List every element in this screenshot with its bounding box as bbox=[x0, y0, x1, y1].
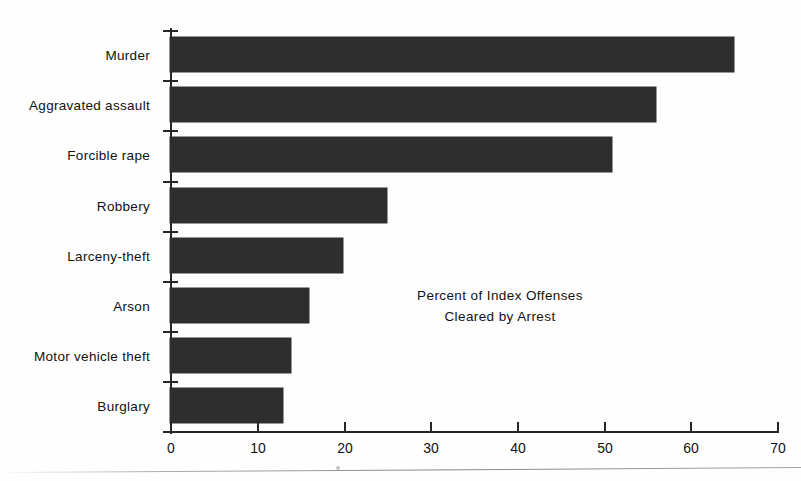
bar-burglary bbox=[170, 388, 283, 423]
bar-forcible-rape bbox=[170, 137, 612, 172]
category-label-robbery: Robbery bbox=[97, 199, 150, 214]
chart-annotation: Percent of Index Offenses Cleared by Arr… bbox=[380, 286, 620, 328]
x-axis-tick-label-60: 60 bbox=[683, 440, 699, 456]
bar-arson bbox=[170, 288, 309, 323]
x-axis-tick-label-40: 40 bbox=[510, 440, 526, 456]
x-axis-tick bbox=[690, 422, 692, 433]
chart-annotation-line-1: Percent of Index Offenses bbox=[380, 286, 620, 307]
x-axis-tick-label-50: 50 bbox=[597, 440, 613, 456]
x-axis-tick bbox=[170, 422, 172, 433]
x-axis-tick bbox=[777, 422, 779, 433]
x-axis-tick bbox=[517, 422, 519, 433]
category-label-motor-vehicle-theft: Motor vehicle theft bbox=[34, 349, 150, 364]
category-label-forcible-rape: Forcible rape bbox=[67, 148, 150, 163]
category-label-arson: Arson bbox=[113, 299, 150, 314]
x-axis-tick bbox=[344, 422, 346, 433]
bar-robbery bbox=[170, 188, 387, 223]
x-axis-tick-label-20: 20 bbox=[337, 440, 353, 456]
category-axis-labels: Murder Aggravated assault Forcible rape … bbox=[0, 30, 160, 432]
category-label-burglary: Burglary bbox=[97, 399, 150, 414]
scan-artifact-speck bbox=[336, 466, 340, 470]
bar-chart-figure: Murder Aggravated assault Forcible rape … bbox=[0, 0, 801, 481]
bar-aggravated-assault bbox=[170, 87, 656, 122]
bar-larceny-theft bbox=[170, 238, 343, 273]
x-axis-tick-label-70: 70 bbox=[770, 440, 786, 456]
bar-motor-vehicle-theft bbox=[170, 338, 291, 373]
x-axis-tick bbox=[257, 422, 259, 433]
x-axis-tick bbox=[604, 422, 606, 433]
x-axis-tick-label-30: 30 bbox=[423, 440, 439, 456]
category-label-larceny-theft: Larceny-theft bbox=[67, 249, 150, 264]
x-axis-tick-label-0: 0 bbox=[167, 440, 175, 456]
plot-area bbox=[170, 30, 777, 432]
bar-murder bbox=[170, 37, 734, 72]
category-label-murder: Murder bbox=[105, 48, 150, 63]
chart-annotation-line-2: Cleared by Arrest bbox=[380, 307, 620, 328]
x-axis-tick bbox=[430, 422, 432, 433]
x-axis-line bbox=[170, 431, 779, 433]
scan-artifact-line bbox=[0, 467, 801, 473]
x-axis-tick-label-10: 10 bbox=[250, 440, 266, 456]
category-label-aggravated-assault: Aggravated assault bbox=[29, 98, 150, 113]
